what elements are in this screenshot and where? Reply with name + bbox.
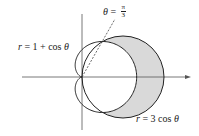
theta-variable: θ	[174, 113, 179, 124]
x-axis-arrow-icon	[185, 75, 191, 79]
cardioid-equation-label: r = 1 + cos θ	[18, 42, 69, 52]
fraction: π 3	[121, 4, 127, 19]
equation-text: = 1 + cos	[22, 41, 64, 52]
theta-ray-label: θ = π 3	[103, 4, 126, 19]
circle-equation-label: r = 3 cos θ	[136, 114, 179, 124]
theta-ray-dashed	[82, 19, 115, 77]
theta-variable: θ	[64, 41, 69, 52]
fraction-denominator: 3	[122, 12, 126, 19]
equation-text: = 3 cos	[140, 113, 174, 124]
equals-sign: =	[108, 7, 119, 17]
